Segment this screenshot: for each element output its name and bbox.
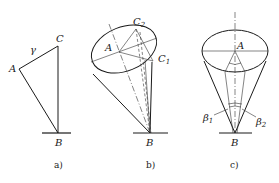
label-a: A (236, 40, 244, 51)
inner-line-right (235, 51, 245, 72)
caption-c: c) (230, 160, 239, 170)
label-beta2: β2 (255, 116, 267, 129)
link-a-c (19, 46, 58, 69)
label-c: C (56, 33, 64, 44)
cone-generator-right (150, 62, 152, 133)
line-a-c1 (119, 52, 153, 61)
label-a: A (104, 42, 112, 53)
label-gamma: γ (30, 44, 36, 55)
angle-arc-2 (229, 106, 241, 107)
panel-b: A C2 C1 B b) (84, 16, 170, 170)
label-beta1: β1 (202, 112, 213, 125)
cone-axis (109, 24, 150, 133)
link-a-b (19, 69, 58, 133)
cone-generator-left (93, 74, 150, 133)
angle-arc-top (229, 63, 241, 65)
inner-gen-left (225, 72, 233, 133)
label-c2: C2 (133, 16, 146, 29)
caption-b: b) (146, 160, 155, 170)
label-c1: C1 (158, 53, 170, 66)
label-b: B (54, 137, 62, 148)
inner-gen-right (237, 72, 245, 133)
label-b: B (230, 137, 238, 148)
label-a: A (8, 63, 16, 74)
label-b: B (145, 137, 153, 148)
caption-a: a) (54, 160, 63, 170)
panel-a: A C γ B a) (8, 33, 71, 170)
panel-c: A β1 β2 B c) (202, 12, 268, 170)
kinematic-cone-diagram: A C γ B a) A C2 C1 B b) (0, 0, 279, 183)
inner-line-left (225, 51, 235, 72)
